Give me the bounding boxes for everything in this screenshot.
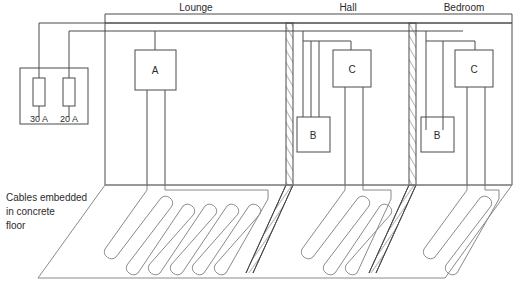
bedroom-circuit — [421, 31, 493, 186]
note-line-3: floor — [6, 220, 26, 231]
diagram-canvas: Lounge Hall Bedroom 30 A 20 A A B C B C … — [0, 0, 520, 290]
room-label-lounge: Lounge — [179, 2, 213, 13]
box-label-bedroom-c: C — [470, 64, 477, 75]
note-line-2: in concrete — [6, 206, 55, 217]
note-line-1: Cables embedded — [6, 192, 87, 203]
fuse-label-20a: 20 A — [60, 114, 78, 124]
hall-circuit — [297, 31, 371, 186]
box-label-hall-c: C — [348, 64, 355, 75]
fuse-label-30a: 30 A — [30, 114, 48, 124]
room-outline — [105, 14, 512, 185]
fuse-30a — [33, 78, 45, 106]
wall-partition-hall-bedroom — [369, 23, 416, 273]
wall-partition-lounge-hall — [246, 23, 293, 273]
box-label-bedroom-b: B — [434, 130, 441, 141]
box-label-hall-b: B — [310, 130, 317, 141]
fuse-box[interactable] — [20, 23, 512, 124]
floor-cable-bedroom — [423, 186, 499, 275]
room-label-hall: Hall — [339, 2, 356, 13]
room-label-bedroom: Bedroom — [444, 2, 485, 13]
wiring-diagram: Lounge Hall Bedroom 30 A 20 A A B C B C … — [0, 0, 520, 290]
concrete-floor-slab — [38, 185, 512, 278]
floor-cable-lounge — [104, 186, 268, 275]
lounge-circuit — [135, 31, 176, 186]
fuse-20a — [63, 78, 75, 106]
box-label-lounge-a: A — [152, 65, 159, 76]
feed-wire-20a — [69, 31, 463, 78]
